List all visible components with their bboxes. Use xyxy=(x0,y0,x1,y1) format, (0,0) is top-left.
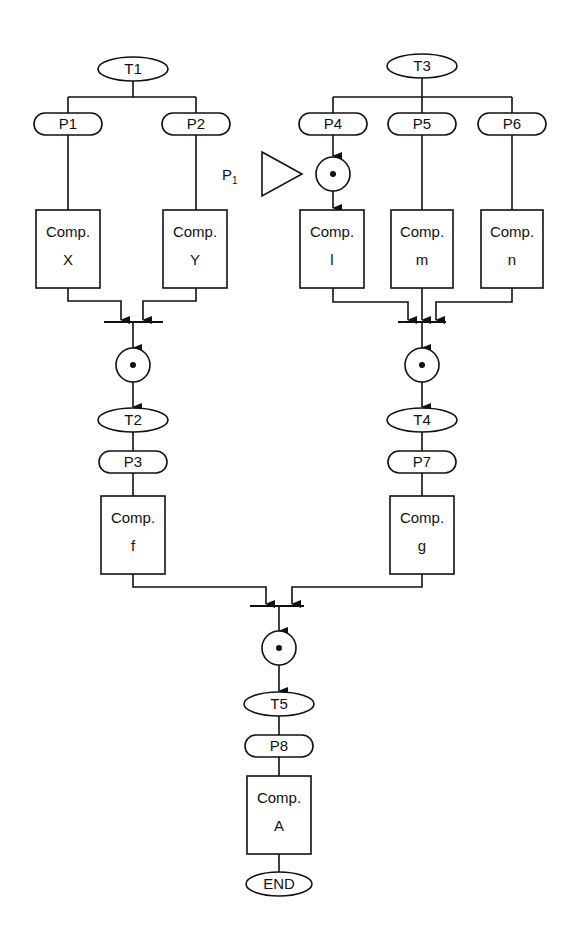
place-p4: P4 xyxy=(299,113,367,135)
token-dot-icon xyxy=(130,362,136,368)
place-label: P6 xyxy=(503,115,521,132)
priority-marker: P1 xyxy=(222,152,302,196)
transition-t5: T5 xyxy=(244,692,314,716)
component-name: X xyxy=(63,251,73,268)
component-box xyxy=(163,210,227,288)
token-dot-icon xyxy=(419,362,425,368)
transition-label: T3 xyxy=(413,57,431,74)
place-label: P5 xyxy=(413,115,431,132)
component-A: Comp.A xyxy=(247,776,311,854)
component-title: Comp. xyxy=(111,509,155,526)
place-p5: P5 xyxy=(388,113,456,135)
transition-t4: T4 xyxy=(387,408,457,432)
place-p6: P6 xyxy=(478,113,546,135)
component-name: n xyxy=(508,251,516,268)
transition-t2: T2 xyxy=(98,408,168,432)
transition-label: T5 xyxy=(270,695,288,712)
component-name: m xyxy=(416,251,429,268)
transition-t1: T1 xyxy=(98,57,168,81)
component-name: A xyxy=(274,817,284,834)
component-box xyxy=(391,210,453,288)
place-p7: P7 xyxy=(388,451,456,473)
component-name: Y xyxy=(190,251,200,268)
component-box xyxy=(481,210,543,288)
component-X: Comp.X xyxy=(36,210,100,288)
place-label: P4 xyxy=(324,115,342,132)
petri-net-diagram: T1T2T3T4T5END P1P2P3P4P5P6P7P8 Comp.XCom… xyxy=(0,0,576,943)
component-title: Comp. xyxy=(310,223,354,240)
component-f: Comp.f xyxy=(101,496,165,574)
token-dot-icon xyxy=(330,171,336,177)
component-title: Comp. xyxy=(46,223,90,240)
token-dot-icon xyxy=(276,645,282,651)
token-join2 xyxy=(405,348,439,382)
component-n: Comp.n xyxy=(481,210,543,288)
place-label: P7 xyxy=(413,453,431,470)
transition-t3: T3 xyxy=(387,54,457,78)
component-title: Comp. xyxy=(257,789,301,806)
component-m: Comp.m xyxy=(391,210,453,288)
component-title: Comp. xyxy=(400,223,444,240)
component-title: Comp. xyxy=(400,509,444,526)
priority-triangle-icon xyxy=(262,152,302,196)
transition-label: T4 xyxy=(413,411,431,428)
component-name: g xyxy=(418,537,426,554)
component-title: Comp. xyxy=(490,223,534,240)
component-name: l xyxy=(330,251,333,268)
component-box xyxy=(390,496,454,574)
token-join1 xyxy=(116,348,150,382)
place-label: P3 xyxy=(124,453,142,470)
component-box xyxy=(36,210,100,288)
component-box xyxy=(300,210,364,288)
component-l: Comp.l xyxy=(300,210,364,288)
transition-end: END xyxy=(246,872,312,896)
place-p8: P8 xyxy=(245,735,313,757)
component-box xyxy=(101,496,165,574)
component-title: Comp. xyxy=(173,223,217,240)
transition-label: T1 xyxy=(124,60,142,77)
place-label: P8 xyxy=(270,737,288,754)
place-p3: P3 xyxy=(99,451,167,473)
token-p4 xyxy=(316,157,350,191)
place-p1: P1 xyxy=(34,113,102,135)
transition-label: END xyxy=(263,875,295,892)
priority-label: P1 xyxy=(222,166,238,186)
component-g: Comp.g xyxy=(390,496,454,574)
place-p2: P2 xyxy=(162,113,230,135)
transition-label: T2 xyxy=(124,411,142,428)
token-join3 xyxy=(262,631,296,665)
place-label: P1 xyxy=(59,115,77,132)
component-Y: Comp.Y xyxy=(163,210,227,288)
place-label: P2 xyxy=(187,115,205,132)
component-box xyxy=(247,776,311,854)
